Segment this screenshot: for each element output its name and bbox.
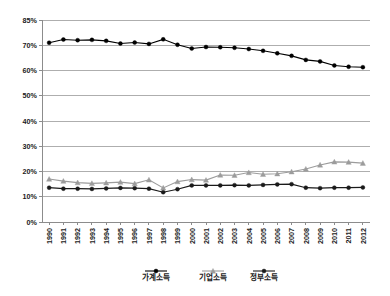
data-point [118, 186, 122, 190]
data-point [347, 65, 351, 69]
data-point [104, 186, 108, 190]
data-point [261, 183, 265, 187]
legend-label: 정부소득 [250, 272, 278, 282]
data-point [118, 42, 122, 46]
data-point [247, 47, 251, 51]
data-point [304, 58, 308, 62]
data-point [76, 38, 80, 42]
data-point [204, 183, 208, 187]
data-point [318, 186, 322, 190]
x-axis-tick-label: 1999 [173, 228, 182, 244]
data-point [104, 39, 108, 43]
data-point [275, 51, 279, 55]
x-axis-tick-label: 1995 [116, 228, 125, 244]
x-axis-tick-label: 2010 [330, 228, 339, 244]
data-point [347, 186, 351, 190]
x-axis-tick-label: 1991 [59, 228, 68, 244]
line-chart: 85%70%60%50%40%30%20%10%0%19901991199219… [0, 0, 390, 296]
x-axis-tick-label: 2002 [216, 228, 225, 244]
data-point [290, 182, 294, 186]
data-point [332, 186, 336, 190]
data-point [133, 186, 137, 190]
chart-container: 85%70%60%50%40%30%20%10%0%19901991199219… [0, 0, 390, 296]
data-point [204, 45, 208, 49]
data-point [146, 177, 151, 182]
y-axis-tick-label: 0% [27, 218, 38, 227]
data-point [61, 187, 65, 191]
legend-item-2[interactable]: 기업소득 [199, 268, 227, 282]
data-point [90, 38, 94, 42]
x-axis-tick-label: 1990 [45, 228, 54, 244]
y-axis-tick-label: 10% [23, 192, 38, 201]
data-point [175, 43, 179, 47]
x-axis-tick-label: 2009 [316, 228, 325, 244]
data-point [147, 42, 151, 46]
data-point [161, 190, 165, 194]
series-1 [47, 37, 365, 69]
data-point [133, 41, 137, 45]
y-axis-tick-label: 40% [23, 117, 38, 126]
x-axis-tick-label: 1998 [159, 228, 168, 244]
data-point [175, 187, 179, 191]
x-axis-tick-label: 2000 [188, 228, 197, 244]
data-point [161, 37, 165, 41]
data-point [233, 183, 237, 187]
legend-item-1[interactable]: 가계소득 [142, 269, 170, 282]
x-axis-tick-label: 2005 [259, 228, 268, 244]
y-axis-tick-label: 20% [23, 167, 38, 176]
x-axis-tick-label: 1994 [102, 228, 111, 244]
data-point [318, 59, 322, 63]
x-axis-tick-label: 1997 [145, 228, 154, 244]
x-axis-tick-label: 2004 [245, 228, 254, 244]
data-point [147, 187, 151, 191]
data-point [361, 185, 365, 189]
data-point [332, 63, 336, 67]
data-point [190, 47, 194, 51]
legend-item-3[interactable]: 정부소득 [250, 269, 278, 282]
data-point [218, 183, 222, 187]
legend-label: 기업소득 [199, 272, 227, 282]
data-point [233, 46, 237, 50]
x-axis-tick-label: 2006 [273, 228, 282, 244]
legend-label: 가계소득 [142, 272, 170, 282]
data-point [247, 183, 251, 187]
x-axis-tick-label: 1993 [88, 228, 97, 244]
x-axis-tick-label: 1992 [73, 228, 82, 244]
data-point [47, 186, 51, 190]
data-point [275, 182, 279, 186]
y-axis-tick-label: 85% [23, 16, 38, 25]
data-point [290, 54, 294, 58]
series-line [49, 39, 363, 67]
y-axis-tick-label: 60% [23, 66, 38, 75]
x-axis-tick-label: 2012 [359, 228, 368, 244]
data-point [161, 185, 166, 190]
y-axis-tick-label: 30% [23, 142, 38, 151]
x-axis-tick-label: 2011 [344, 228, 353, 244]
y-axis-tick-label: 50% [23, 91, 38, 100]
data-point [90, 187, 94, 191]
data-point [190, 183, 194, 187]
x-axis-tick-label: 2003 [230, 228, 239, 244]
x-axis-tick-label: 1996 [130, 228, 139, 244]
data-point [47, 41, 51, 45]
x-axis-tick-label: 2001 [202, 228, 211, 244]
data-point [261, 49, 265, 53]
data-point [76, 187, 80, 191]
data-point [304, 186, 308, 190]
y-axis-tick-label: 70% [23, 41, 38, 50]
x-axis-tick-label: 2008 [302, 228, 311, 244]
data-point [218, 45, 222, 49]
series-3 [47, 182, 365, 194]
x-axis-tick-label: 2007 [287, 228, 296, 244]
data-point [61, 38, 65, 42]
data-point [361, 65, 365, 69]
